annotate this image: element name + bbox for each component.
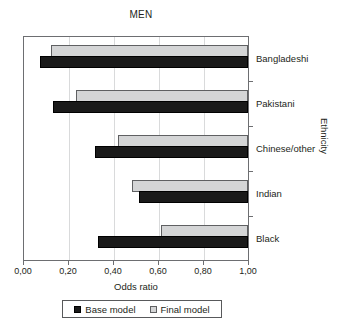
bar-base-model-black [98,236,248,248]
y-axis-label: Ethnicity [319,118,330,154]
legend-entry-base-model: Base model [74,304,135,315]
bar-base-model-chinese-other [95,146,248,158]
legend-swatch-base-model-icon [74,306,81,313]
bar-base-model-pakistani [53,101,248,113]
chart-legend: Base model Final model [62,300,222,318]
bar-group-bangladeshi [24,37,248,82]
legend-swatch-final-model-icon [150,306,157,313]
bar-base-model-indian [139,191,248,203]
ytick-mark-2 [249,171,253,172]
bar-group-indian [24,172,248,217]
xtick-label-5: 1,00 [228,266,268,276]
ytick-mark-0 [249,81,253,82]
xtick-mark-1 [68,261,69,265]
ytick-label-chinese-other: Chinese/other [256,143,315,154]
chart-figure: MEN [0,0,356,331]
ytick-label-bangladeshi: Bangladeshi [256,53,308,64]
legend-label-base-model: Base model [85,304,135,315]
ytick-label-pakistani: Pakistani [256,98,295,109]
ytick-mark-3 [249,216,253,217]
xtick-mark-4 [203,261,204,265]
legend-entry-final-model: Final model [150,304,210,315]
bar-group-pakistani [24,82,248,127]
bar-group-chinese-other [24,127,248,172]
xtick-label-1: 0,20 [48,266,88,276]
legend-label-final-model: Final model [161,304,210,315]
xtick-label-4: 0,80 [183,266,223,276]
chart-title: MEN [0,9,282,20]
xtick-label-0: 0,00 [3,266,43,276]
xtick-mark-3 [158,261,159,265]
bar-group-black [24,217,248,262]
ytick-label-indian: Indian [256,188,282,199]
xtick-mark-5 [248,261,249,265]
x-axis-label: Odds ratio [23,281,249,292]
xtick-label-2: 0,40 [93,266,133,276]
ytick-label-black: Black [256,233,279,244]
xtick-mark-2 [113,261,114,265]
xtick-mark-0 [23,261,24,265]
ytick-mark-1 [249,126,253,127]
xtick-label-3: 0,60 [138,266,178,276]
plot-area [23,36,249,261]
bar-base-model-bangladeshi [40,56,248,68]
